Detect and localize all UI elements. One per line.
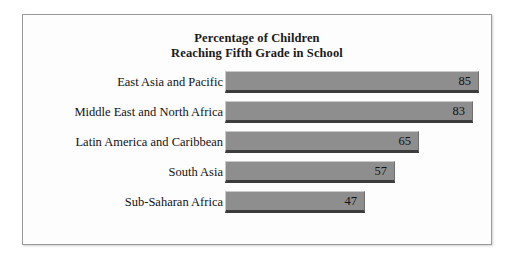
bar-value-label: 47 bbox=[345, 193, 358, 210]
bar-shape[interactable]: 83 bbox=[225, 101, 473, 123]
bar-category-label: Sub-Saharan Africa bbox=[13, 193, 223, 211]
bar-shape[interactable]: 65 bbox=[225, 131, 419, 153]
bar-shape[interactable]: 85 bbox=[225, 71, 479, 93]
bar-category-label: East Asia and Pacific bbox=[13, 73, 223, 91]
chart-title: Percentage of Children Reaching Fifth Gr… bbox=[23, 31, 491, 60]
bar-row: East Asia and Pacific 85 bbox=[23, 71, 493, 93]
bar-category-label: Latin America and Caribbean bbox=[13, 133, 223, 151]
bar-row: Sub-Saharan Africa 47 bbox=[23, 191, 493, 213]
bar-row: Middle East and North Africa 83 bbox=[23, 101, 493, 123]
bar-value-label: 83 bbox=[453, 103, 466, 120]
bar-category-label: Middle East and North Africa bbox=[13, 103, 223, 121]
plot-area: East Asia and Pacific 85 Middle East and… bbox=[23, 71, 493, 231]
chart-title-line-1: Percentage of Children bbox=[23, 31, 491, 46]
chart-title-line-2: Reaching Fifth Grade in School bbox=[23, 46, 491, 61]
bar-row: Latin America and Caribbean 65 bbox=[23, 131, 493, 153]
bar-value-label: 57 bbox=[375, 163, 388, 180]
bar-value-label: 85 bbox=[459, 73, 472, 90]
bar-shape[interactable]: 47 bbox=[225, 191, 365, 213]
chart-frame: Percentage of Children Reaching Fifth Gr… bbox=[22, 14, 492, 245]
bar-value-label: 65 bbox=[399, 133, 412, 150]
bar-row: South Asia 57 bbox=[23, 161, 493, 183]
bar-category-label: South Asia bbox=[13, 163, 223, 181]
bar-shape[interactable]: 57 bbox=[225, 161, 395, 183]
